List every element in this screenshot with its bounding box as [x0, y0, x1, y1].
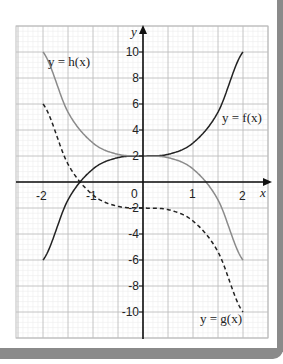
label-f: y = f(x) — [222, 110, 262, 125]
x-tick-label: 1 — [189, 187, 196, 201]
y-tick-label: 4 — [132, 123, 139, 137]
label-g: y = g(x) — [200, 311, 242, 326]
x-axis-label: x — [259, 185, 266, 200]
label-h: y = h(x) — [48, 54, 90, 69]
x-tick-label: -1 — [86, 189, 97, 203]
function-graph: y x -2 -1 0 1 2 10 8 6 4 2 -2 -4 -6 -8 -… — [0, 0, 283, 364]
y-tick-label: 2 — [132, 149, 139, 163]
y-tick-label: -6 — [128, 253, 139, 267]
x-tick-label: 2 — [239, 189, 246, 203]
y-tick-label: -10 — [122, 305, 140, 319]
y-tick-label: -8 — [128, 279, 139, 293]
x-tick-label: -2 — [36, 189, 47, 203]
y-axis-label: y — [129, 24, 137, 39]
y-tick-label: 8 — [132, 71, 139, 85]
y-tick-label: 6 — [132, 97, 139, 111]
y-tick-label: 10 — [126, 45, 140, 59]
y-tick-label: -4 — [128, 227, 139, 241]
x-tick-label: 0 — [131, 187, 138, 201]
y-tick-label: -2 — [128, 201, 139, 215]
